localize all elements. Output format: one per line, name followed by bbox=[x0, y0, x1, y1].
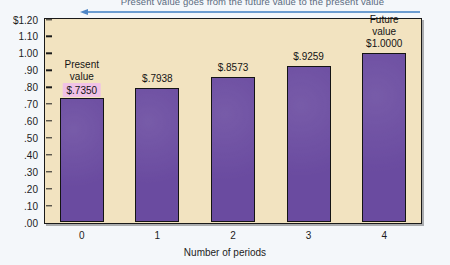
y-axis-tick-mark bbox=[46, 86, 52, 87]
callout-line-1: Future bbox=[370, 14, 399, 25]
y-axis-tick-label: .30 bbox=[24, 166, 38, 177]
y-axis-tick-label: .50 bbox=[24, 132, 38, 143]
y-axis-tick-label: $1.20 bbox=[13, 14, 38, 25]
y-axis-tick-mark bbox=[46, 188, 52, 189]
callout-line-2: value bbox=[372, 26, 396, 37]
callout-line-1: Present bbox=[65, 59, 99, 70]
x-axis-tick-label: 1 bbox=[155, 230, 161, 241]
bar-value-label: $.7938 bbox=[142, 73, 173, 84]
y-axis-tick-mark bbox=[46, 53, 52, 54]
bar-fill bbox=[288, 67, 330, 222]
y-axis-tick-mark bbox=[46, 19, 52, 20]
y-axis-tick-label: 1.00 bbox=[19, 48, 38, 59]
y-axis-tick-mark bbox=[46, 103, 52, 104]
future-value-callout: Futurevalue bbox=[370, 14, 399, 37]
bar-value-label: $.8573 bbox=[218, 62, 249, 73]
y-axis-tick-label: .20 bbox=[24, 183, 38, 194]
y-axis-tick-label: .70 bbox=[24, 99, 38, 110]
bar-fill bbox=[212, 78, 254, 221]
bar bbox=[287, 66, 331, 223]
arrow-line bbox=[86, 11, 420, 13]
bar bbox=[60, 98, 104, 222]
y-axis-tick-mark bbox=[46, 154, 52, 155]
y-axis-tick-mark bbox=[46, 120, 52, 121]
bar-fill bbox=[363, 54, 405, 221]
bar-value-label: $1.0000 bbox=[366, 38, 402, 49]
y-axis-tick-label: .00 bbox=[24, 217, 38, 228]
flow-annotation-label: Present value goes from the future value… bbox=[80, 0, 425, 7]
present-value-callout: Presentvalue bbox=[65, 59, 99, 82]
x-axis-tick-label: 0 bbox=[79, 230, 85, 241]
bar-value-label: $.9259 bbox=[293, 51, 324, 62]
bar bbox=[211, 77, 255, 222]
x-axis-tick-label: 2 bbox=[230, 230, 236, 241]
callout-line-2: value bbox=[70, 71, 94, 82]
y-axis-labels: $1.201.101.00.90.80.70.60.50.40.30.20.10… bbox=[0, 18, 44, 224]
y-axis-tick-label: .90 bbox=[24, 65, 38, 76]
y-axis-tick-label: .80 bbox=[24, 82, 38, 93]
x-axis-title: Number of periods bbox=[0, 247, 450, 258]
y-axis-tick-label: .10 bbox=[24, 200, 38, 211]
y-axis-tick-mark bbox=[46, 36, 52, 37]
y-axis-tick-mark bbox=[46, 171, 52, 172]
y-axis-tick-mark bbox=[46, 205, 52, 206]
arrow-head bbox=[80, 9, 88, 15]
bar-fill bbox=[61, 99, 103, 221]
y-axis-tick-mark bbox=[46, 70, 52, 71]
x-axis-tick-label: 3 bbox=[306, 230, 312, 241]
bar bbox=[135, 88, 179, 222]
chart-scene: Present value goes from the future value… bbox=[0, 0, 450, 265]
y-axis-tick-label: .60 bbox=[24, 116, 38, 127]
y-axis-tick-label: 1.10 bbox=[19, 31, 38, 42]
x-axis-tick-label: 4 bbox=[381, 230, 387, 241]
y-axis-tick-label: .40 bbox=[24, 149, 38, 160]
bar bbox=[362, 53, 406, 222]
bar-fill bbox=[136, 89, 178, 221]
y-axis-tick-mark bbox=[46, 137, 52, 138]
bar-value-label: $.7350 bbox=[63, 83, 102, 97]
